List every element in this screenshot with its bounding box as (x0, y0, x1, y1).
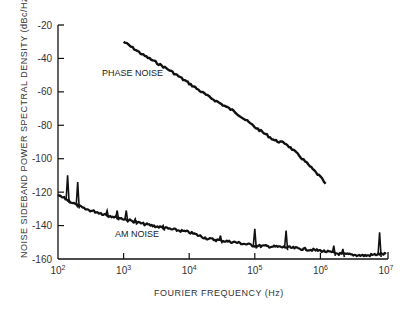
y-axis-title: NOISE SIDEBAND POWER SPECTRAL DENSITY (d… (19, 0, 29, 258)
x-tick-label: 102 (50, 264, 65, 276)
am-noise-spur (341, 249, 344, 257)
am-noise-line (58, 194, 386, 256)
am-noise-spur (219, 236, 222, 244)
am-noise-spur (134, 219, 137, 225)
x-tick-label: 105 (247, 264, 262, 276)
am-noise-spur (332, 246, 335, 256)
am-noise-spur (106, 211, 109, 219)
x-axis-title: FOURIER FREQUENCY (Hz) (154, 288, 284, 298)
x-tick-label: 103 (116, 264, 131, 276)
y-tick-label: -120 (32, 187, 52, 198)
am-noise-label: AM NOISE (115, 229, 159, 239)
y-tick-label: -100 (32, 153, 52, 164)
x-tick-label: 104 (182, 264, 197, 276)
y-tick-label: -40 (38, 53, 53, 64)
y-tick-label: -140 (32, 220, 52, 231)
noise-spectrum-chart: -20-40-60-80-100-120-140-160 10210310410… (0, 0, 407, 313)
y-tick-label: -20 (38, 20, 53, 31)
x-tick-label: 107 (378, 264, 393, 276)
y-tick-label: -60 (38, 86, 53, 97)
y-axis-ticks: -20-40-60-80-100-120-140-160 (32, 20, 64, 265)
axes (58, 25, 388, 259)
y-tick-label: -160 (32, 254, 52, 265)
y-tick-label: -80 (38, 120, 53, 131)
x-tick-label: 106 (313, 264, 328, 276)
phase-noise-label: PHASE NOISE (102, 68, 163, 78)
phase-noise-line (124, 42, 326, 184)
x-axis-ticks: 102103104105106107 (50, 253, 393, 276)
